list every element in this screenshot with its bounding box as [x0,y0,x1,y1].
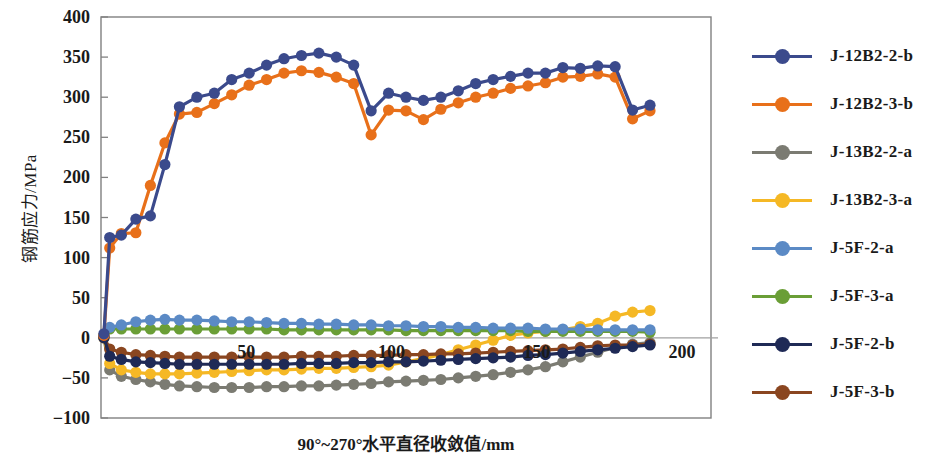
legend-item-J-5F-2-b[interactable]: J-5F-2-b [752,320,937,368]
legend-item-label: J-13B2-2-a [812,142,912,162]
legend-item-J-5F-2-a[interactable]: J-5F-2-a [752,224,937,272]
chart-legend: J-12B2-2-bJ-12B2-3-bJ-13B2-2-aJ-13B2-3-a… [752,32,937,416]
legend-marker-icon [775,97,790,112]
series-J-12B2-2-b [98,47,655,339]
legend-item-label: J-5F-2-a [812,238,894,258]
legend-item-J-5F-3-a[interactable]: J-5F-3-a [752,272,937,320]
chart-figure: −100−50050100150200250300350400 50100150… [0,0,937,459]
legend-marker-icon [775,145,790,160]
legend-swatch-icon [752,383,812,401]
legend-swatch-icon [752,239,812,257]
legend-item-J-13B2-3-a[interactable]: J-13B2-3-a [752,176,937,224]
x-tick-label: 200 [668,342,695,363]
y-tick-label: −100 [30,408,90,429]
legend-item-J-12B2-3-b[interactable]: J-12B2-3-b [752,80,937,128]
legend-marker-icon [775,337,790,352]
data-series-group [98,47,655,393]
legend-marker-icon [775,193,790,208]
legend-item-label: J-5F-3-b [812,382,895,402]
y-tick-label: −50 [30,367,90,388]
x-axis-title: 90°~270°水平直径收敛值/mm [101,430,711,455]
legend-swatch-icon [752,335,812,353]
y-tick-label: 300 [30,87,90,108]
legend-item-label: J-12B2-2-b [812,46,913,66]
legend-swatch-icon [752,191,812,209]
y-axis-title: 钢筋应力/MPa [16,109,41,309]
legend-marker-icon [775,241,790,256]
x-tick-label: 150 [523,342,550,363]
y-tick-label: 0 [30,327,90,348]
legend-item-label: J-13B2-3-a [812,190,912,210]
legend-swatch-icon [752,47,812,65]
legend-swatch-icon [752,95,812,113]
legend-item-J-5F-3-b[interactable]: J-5F-3-b [752,368,937,416]
legend-item-label: J-5F-3-a [812,286,894,306]
legend-item-label: J-12B2-3-b [812,94,913,114]
y-tick-label: 400 [30,7,90,28]
legend-marker-icon [775,49,790,64]
legend-item-J-12B2-2-b[interactable]: J-12B2-2-b [752,32,937,80]
x-tick-label: 50 [237,342,255,363]
legend-swatch-icon [752,143,812,161]
legend-item-label: J-5F-2-b [812,334,895,354]
legend-item-J-13B2-2-a[interactable]: J-13B2-2-a [752,128,937,176]
x-tick-label: 100 [378,342,405,363]
legend-marker-icon [775,289,790,304]
y-tick-label: 350 [30,47,90,68]
legend-marker-icon [775,385,790,400]
legend-swatch-icon [752,287,812,305]
